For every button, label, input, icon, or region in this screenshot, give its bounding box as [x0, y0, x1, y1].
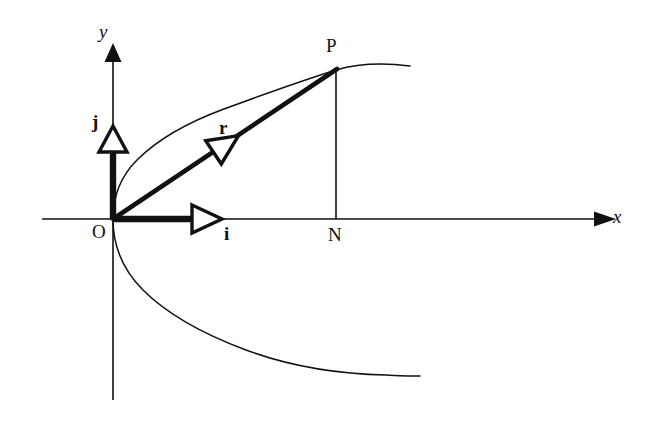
position-vector-r: [113, 69, 337, 219]
unit-vector-j-label: j: [92, 112, 98, 131]
parabola-upper-branch: [113, 64, 410, 219]
vector-diagram-figure: y x O P N i j r: [0, 0, 652, 427]
vector-r-label: r: [219, 118, 227, 137]
unit-vector-i-label: i: [224, 224, 229, 243]
vector-i-arrowhead-icon: [192, 205, 222, 233]
vector-j-arrowhead-icon: [99, 126, 127, 152]
point-p-label: P: [326, 36, 337, 55]
origin-label: O: [92, 222, 106, 241]
y-axis-label: y: [99, 22, 107, 41]
x-axis-label: x: [613, 207, 621, 226]
foot-n-label: N: [328, 225, 342, 244]
y-axis-arrowhead-icon: [105, 43, 122, 62]
diagram-canvas: [0, 0, 652, 427]
parabola-lower-branch: [113, 219, 420, 376]
unit-vector-j: [99, 126, 127, 219]
